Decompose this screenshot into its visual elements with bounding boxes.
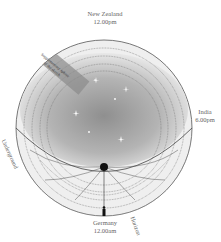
place-label: New Zealand — [80, 10, 130, 18]
label-bottom: Germany 12.00am — [80, 219, 130, 235]
label-top: New Zealand 12.00pm — [80, 10, 130, 26]
time-label: 12.00am — [80, 227, 130, 235]
place-label: India — [189, 108, 221, 116]
zenith-point — [100, 163, 108, 171]
time-label: 6.00pm — [189, 116, 221, 124]
time-label: 12.00pm — [80, 18, 130, 26]
celestial-sphere-diagram — [0, 0, 221, 242]
sky-region — [20, 53, 188, 167]
label-right: India 6.00pm — [189, 108, 221, 124]
observer-figure — [103, 209, 106, 216]
place-label: Germany — [80, 219, 130, 227]
